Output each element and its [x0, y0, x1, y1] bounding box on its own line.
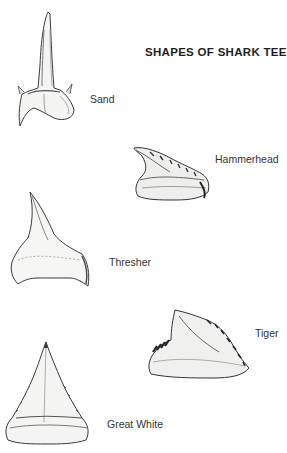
page-title: SHAPES OF SHARK TEETH: [145, 46, 287, 58]
hammerhead-label: Hammerhead: [215, 153, 279, 165]
thresher-label: Thresher: [109, 256, 151, 268]
thresher-tooth-illustration: [8, 190, 98, 290]
tiger-tooth-illustration: [145, 302, 255, 382]
great-white-label: Great White: [107, 418, 163, 430]
hammerhead-tooth-illustration: [130, 142, 212, 204]
sand-label: Sand: [90, 93, 115, 105]
sand-tooth-illustration: [14, 10, 78, 130]
tiger-label: Tiger: [255, 327, 279, 339]
great-white-tooth-illustration: [4, 338, 94, 448]
